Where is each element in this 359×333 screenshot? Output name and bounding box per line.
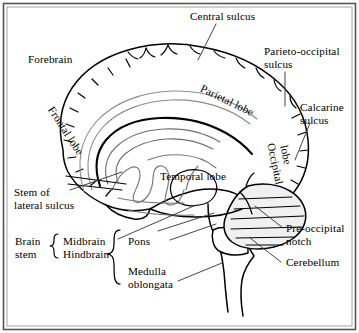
label-calcarine-sulcus-line2: sulcus xyxy=(300,114,329,127)
label-cerebellum: Cerebellum xyxy=(286,256,339,269)
brace-brain-stem xyxy=(50,234,58,258)
label-brain-stem-line1: Brain xyxy=(15,235,40,248)
leader-medulla xyxy=(178,263,222,281)
label-hindbrain: Hindbrain xyxy=(63,248,109,261)
label-pons: Pons xyxy=(128,235,150,248)
label-central-sulcus: Central sulcus xyxy=(190,10,255,23)
label-medulla-line2: oblongata xyxy=(128,278,173,291)
label-temporal-lobe: Temporal lobe xyxy=(160,170,226,183)
label-parieto-occipital-sulcus-line2: sulcus xyxy=(264,58,293,71)
brain-anatomy-figure: Forebrain Central sulcus Parieto-occipit… xyxy=(0,0,359,333)
label-stem-of-lateral-sulcus-line2: lateral sulcus xyxy=(14,199,74,212)
label-forebrain: Forebrain xyxy=(28,53,72,66)
label-midbrain: Midbrain xyxy=(63,235,105,248)
label-medulla-line1: Medulla xyxy=(128,265,166,278)
label-parieto-occipital-sulcus-line1: Parieto-occipital xyxy=(264,45,340,58)
label-pre-occipital-notch-line2: notch xyxy=(286,235,311,248)
label-pre-occipital-notch-line1: Pre-occipital xyxy=(286,222,344,235)
label-stem-of-lateral-sulcus-line1: Stem of xyxy=(14,186,50,199)
leader-pons xyxy=(170,224,216,240)
label-brain-stem-line2: stem xyxy=(15,248,37,261)
label-calcarine-sulcus-line1: Calcarine xyxy=(300,101,344,114)
